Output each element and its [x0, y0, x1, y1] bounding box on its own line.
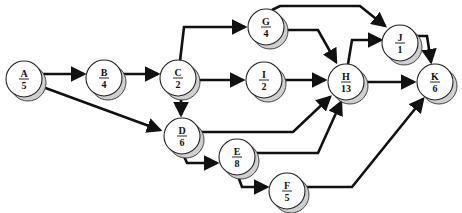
node-activity-label: B [101, 67, 108, 78]
node-i: I2 [246, 62, 286, 102]
node-duration-label: 1 [398, 44, 403, 55]
node-duration-label: 6 [433, 83, 438, 94]
node-c: C2 [160, 60, 200, 100]
node-activity-label: A [20, 68, 28, 79]
node-duration-label: 5 [285, 192, 290, 203]
node-activity-label: F [284, 180, 290, 191]
nodes: A5B4C2G4I2D6E8F5H13J1K6 [6, 9, 457, 213]
node-duration-label: 2 [262, 81, 267, 92]
node-activity-label: D [178, 125, 185, 136]
node-activity-label: H [342, 71, 350, 82]
edge-g-h [285, 30, 336, 62]
node-activity-label: E [234, 146, 241, 157]
edge-h-j [348, 40, 381, 64]
node-d: D6 [164, 118, 204, 158]
edge-c-g [180, 27, 245, 61]
node-activity-label: J [398, 32, 403, 43]
node-duration-label: 4 [102, 79, 107, 90]
node-h: H13 [328, 64, 368, 104]
node-j: J1 [382, 25, 422, 65]
node-g: G4 [248, 9, 288, 49]
node-duration-label: 5 [22, 80, 27, 91]
node-k: K6 [417, 64, 457, 104]
edge-g-j [272, 6, 385, 26]
node-e: E8 [219, 139, 259, 179]
node-duration-label: 6 [180, 137, 185, 148]
node-activity-label: C [174, 67, 181, 78]
node-duration-label: 8 [235, 158, 240, 169]
network-diagram: A5B4C2G4I2D6E8F5H13J1K6 [0, 0, 462, 213]
node-activity-label: G [262, 16, 270, 27]
node-activity-label: I [262, 69, 266, 80]
node-f: F5 [269, 173, 309, 213]
node-b: B4 [86, 60, 126, 100]
node-duration-label: 13 [341, 83, 351, 94]
node-a: A5 [6, 61, 46, 101]
node-duration-label: 2 [176, 79, 181, 90]
node-activity-label: K [431, 71, 439, 82]
node-duration-label: 4 [264, 28, 269, 39]
